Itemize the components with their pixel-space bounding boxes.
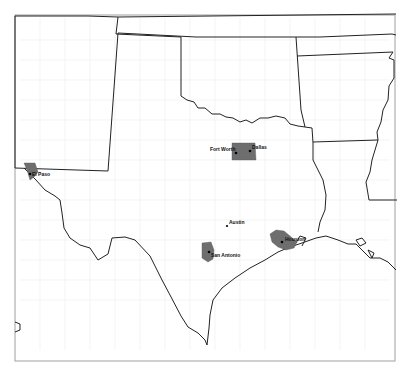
city-markers: Fort Worth Dallas El Paso Austin San Ant… [29,144,306,258]
city-label-fort-worth: Fort Worth [210,146,235,152]
city-label-san-antonio: San Antonio [211,252,240,258]
city-label-austin: Austin [229,219,245,225]
city-dot-austin [226,225,228,227]
city-label-el-paso: El Paso [32,171,50,177]
city-dot-dallas [249,150,252,153]
city-dot-houston [281,241,284,244]
map-frame [15,15,395,361]
city-dot-san-antonio [208,251,211,254]
city-label-houston: Houston [285,236,305,242]
city-dot-el-paso [29,173,32,176]
city-label-dallas: Dallas [252,144,267,150]
city-dot-fort-worth [235,152,238,155]
map-canvas: Fort Worth Dallas El Paso Austin San Ant… [0,0,404,372]
county-borders [20,18,390,350]
